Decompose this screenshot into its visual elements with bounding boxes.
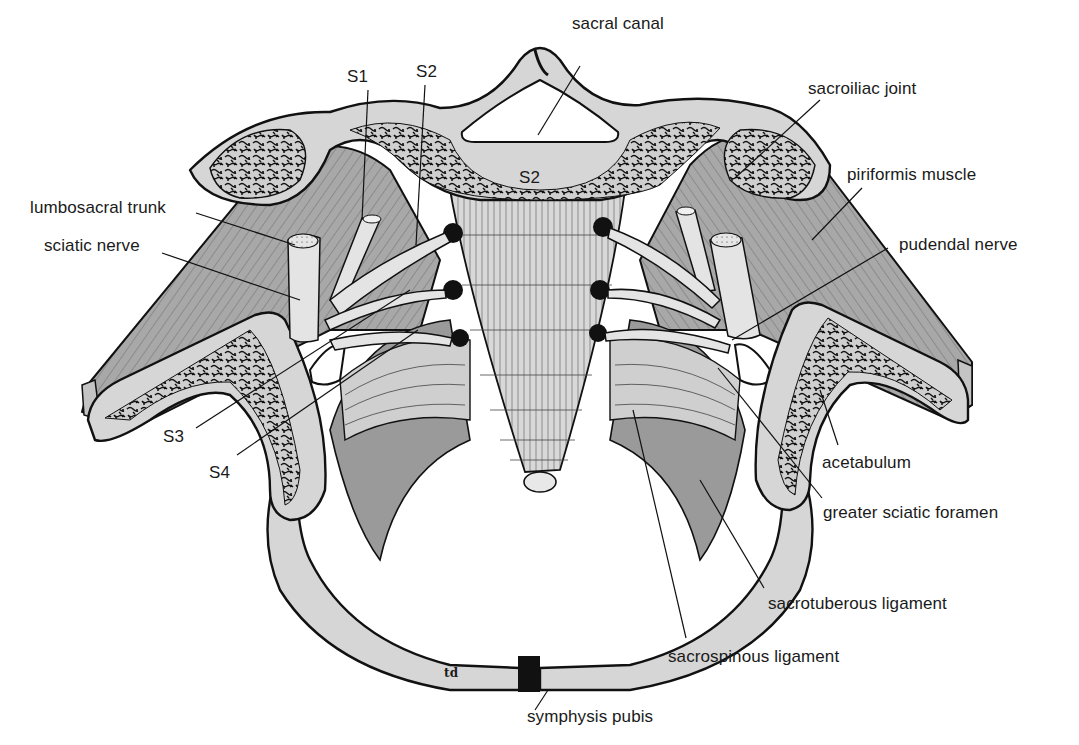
greater-sciatic-foramen-right <box>735 344 770 384</box>
label-acetabulum: acetabulum <box>822 453 911 473</box>
pelvis-diagram <box>0 0 1079 745</box>
label-s2-vertebra: S2 <box>519 168 540 188</box>
coccyx-tip <box>524 472 556 492</box>
label-symphysis-pubis: symphysis pubis <box>527 707 653 727</box>
label-lumbosacral-trunk: lumbosacral trunk <box>30 198 166 218</box>
label-s1: S1 <box>347 67 368 87</box>
sacral-base <box>190 48 830 205</box>
label-sacral-canal: sacral canal <box>572 14 664 34</box>
greater-sciatic-foramen-left <box>310 344 345 384</box>
label-pudendal-nerve: pudendal nerve <box>899 235 1018 255</box>
label-s3: S3 <box>163 427 184 447</box>
label-s4: S4 <box>209 463 230 483</box>
symphysis-pubis <box>518 656 540 692</box>
label-sciatic-nerve: sciatic nerve <box>44 236 140 256</box>
artist-signature: td <box>444 663 458 683</box>
label-sacroiliac-joint: sacroiliac joint <box>808 79 916 99</box>
label-s2: S2 <box>416 62 437 82</box>
label-piriformis-muscle: piriformis muscle <box>847 165 976 185</box>
label-sacrotuberous-ligament: sacrotuberous ligament <box>768 594 947 614</box>
label-greater-sciatic-foramen: greater sciatic foramen <box>823 503 998 523</box>
label-sacrospinous-ligament: sacrospinous ligament <box>668 647 839 667</box>
